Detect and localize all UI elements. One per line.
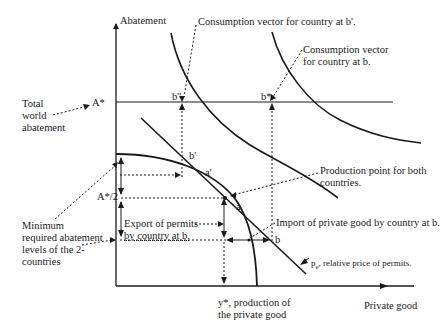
point-a-label: a — [236, 201, 241, 213]
point-a-marker — [223, 196, 227, 200]
consumption-b-prime-note: Consumption vector for country at b'. — [198, 16, 356, 28]
x-axis-label: Private good — [364, 300, 417, 312]
consumption-b-note: Consumption vector for country at b. — [303, 44, 388, 68]
y-star-note: y*, production of the private good — [218, 297, 291, 321]
point-a-prime-label: a' — [205, 167, 212, 179]
point-b-prime-label: b' — [189, 150, 196, 162]
y-axis-label: Abatement — [120, 15, 166, 27]
minimum-required-note: Minimum required abatement levels of the… — [22, 220, 103, 268]
total-world-abatement-note: Total world abatement — [22, 98, 65, 134]
point-b-label: b — [275, 234, 280, 246]
import-private-good-note: Import of private good by country at b. — [276, 217, 440, 229]
relative-price-pointer — [300, 258, 309, 265]
point-b-double-prime-label: b'' — [172, 91, 181, 103]
point-ppf-b-marker — [248, 239, 251, 242]
production-point-note: Production point for both countries. — [320, 165, 426, 189]
export-permits-note: Export of permits by country at b. — [124, 218, 198, 242]
relative-price-note: pe, relative price of permits. — [311, 257, 412, 273]
x-axis — [116, 283, 414, 289]
a-star-label: A* — [92, 97, 105, 109]
point-b-star-label: b* — [261, 91, 272, 103]
a-star-half-label: A*/2 — [97, 191, 118, 203]
